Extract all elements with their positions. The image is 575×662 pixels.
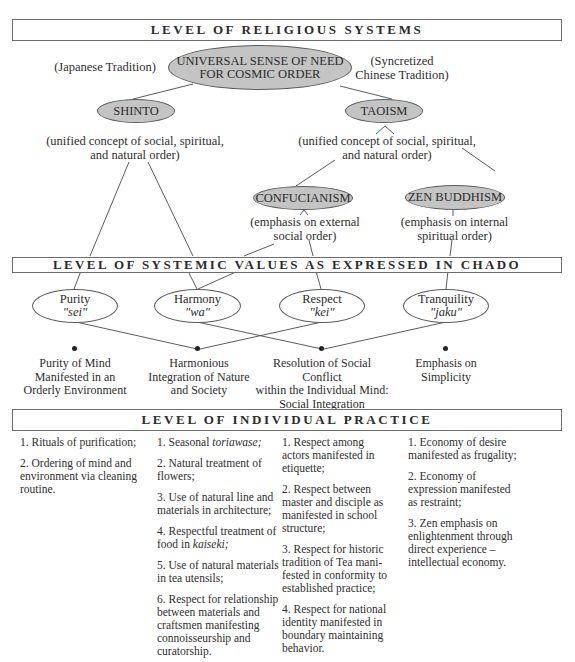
level-religious-systems-header: LEVEL OF RELIGIOUS SYSTEMS [12, 19, 562, 41]
chinese-tradition-label: (Syncretized Chinese Tradition) [352, 54, 452, 82]
practice-item: 3. Respect for historic tradition of Tea… [282, 543, 388, 595]
level-individual-practice-header: LEVEL OF INDIVIDUAL PRACTICE [12, 409, 562, 431]
item-term: toriawase; [212, 436, 261, 448]
value-harmony: Harmony "wa" [154, 289, 241, 323]
outcome-dot-purity [72, 346, 77, 351]
item-term: kaiseki; [193, 538, 229, 550]
practice-item: 1. Economy of desire manifested as fruga… [408, 436, 518, 462]
outcome-line: Simplicity [400, 371, 492, 385]
value-tranquility: Tranquility "jaku" [403, 289, 489, 323]
note-line: (emphasis on internal [392, 215, 517, 229]
taoism-note: (unified concept of social, spiritual, a… [292, 134, 482, 162]
label-line: (Syncretized [352, 54, 452, 68]
note-line: and natural order) [292, 148, 482, 162]
shinto-note: (unified concept of social, spiritual, a… [40, 134, 230, 162]
outcome-respect: Resolution of Social Conflict within the… [255, 357, 389, 411]
zen-note: (emphasis on internal spiritual order) [392, 215, 517, 243]
practice-item: 2. Economy of expression manifested as r… [408, 470, 518, 509]
note-line: (unified concept of social, spiritual, [40, 134, 230, 148]
practice-column-tranquility: 1. Economy of desire manifested as fruga… [408, 436, 518, 577]
practice-item: 2. Ordering of mind and environment via … [20, 457, 142, 496]
value-japanese: "wa" [185, 306, 210, 319]
node-label: CONFUCIANISM [255, 192, 350, 205]
practice-item: 2. Respect between master and disciple a… [282, 483, 388, 535]
outcome-line: within the Individual Mind: [255, 384, 389, 398]
node-zen-buddhism: ZEN BUDDHISM [405, 185, 505, 210]
outcome-line: Manifested in an [14, 371, 136, 385]
value-japanese: "sei" [63, 306, 87, 319]
outcome-tranquility: Emphasis on Simplicity [400, 357, 492, 384]
node-label: FOR COSMIC ORDER [200, 68, 321, 81]
practice-column-respect: 1. Respect among actors manifested in et… [282, 436, 388, 662]
outcome-dot-harmony [195, 346, 200, 351]
practice-column-purity: 1. Rituals of purification; 2. Ordering … [20, 436, 142, 504]
practice-item: 4. Respectful treatment of food in kaise… [157, 525, 279, 551]
node-label: ZEN BUDDHISM [408, 191, 502, 204]
value-respect: Respect "kei" [279, 289, 365, 323]
practice-item: 1. Seasonal toriawase; [157, 436, 279, 449]
outcome-line: Purity of Mind [14, 357, 136, 371]
practice-item: 6. Respect for relationship between mate… [157, 593, 279, 658]
note-line: (emphasis on external [240, 215, 370, 229]
note-line: spiritual order) [392, 229, 517, 243]
practice-item: 1. Respect among actors manifested in et… [282, 436, 388, 475]
outcome-line: and Society [140, 384, 258, 398]
practice-item: 4. Respect for national identity manifes… [282, 603, 388, 655]
value-japanese: "jaku" [430, 306, 462, 319]
outcome-line: Resolution of Social Conflict [255, 357, 389, 384]
practice-item: 1. Rituals of purification; [20, 436, 142, 449]
japanese-tradition-label: (Japanese Tradition) [45, 60, 165, 74]
note-line: and natural order) [40, 148, 230, 162]
practice-item: 3. Use of natural line and materials in … [157, 491, 279, 517]
confucianism-note: (emphasis on external social order) [240, 215, 370, 243]
practice-column-harmony: 1. Seasonal toriawase; 2. Natural treatm… [157, 436, 279, 662]
outcome-dot-tranquility [443, 346, 448, 351]
label-line: Chinese Tradition) [352, 68, 452, 82]
outcome-line: Integration of Nature [140, 371, 258, 385]
node-shinto: SHINTO [97, 99, 175, 123]
practice-item: 3. Zen emphasis on enlightenment through… [408, 517, 518, 569]
node-universal-cosmic-order: UNIVERSAL SENSE OF NEED FOR COSMIC ORDER [168, 45, 352, 90]
node-label: SHINTO [113, 105, 159, 118]
node-taoism: TAOISM [345, 99, 423, 123]
outcome-purity: Purity of Mind Manifested in an Orderly … [14, 357, 136, 398]
node-label: TAOISM [361, 105, 408, 118]
level-systemic-values-header: LEVEL OF SYSTEMIC VALUES AS EXPRESSED IN… [12, 257, 562, 273]
note-line: social order) [240, 229, 370, 243]
practice-item: 2. Natural treatment of flowers; [157, 457, 279, 483]
outcome-line: Harmonious [140, 357, 258, 371]
value-japanese: "kei" [309, 306, 334, 319]
note-line: (unified concept of social, spiritual, [292, 134, 482, 148]
node-confucianism: CONFUCIANISM [253, 186, 353, 210]
outcome-harmony: Harmonious Integration of Nature and Soc… [140, 357, 258, 398]
node-label: UNIVERSAL SENSE OF NEED [176, 55, 343, 68]
outcome-line: Emphasis on [400, 357, 492, 371]
practice-item: 5. Use of natural materials in tea utens… [157, 559, 279, 585]
outcome-line: Orderly Environment [14, 384, 136, 398]
item-text: 1. Seasonal [157, 436, 212, 448]
outcome-dot-respect [319, 346, 324, 351]
value-purity: Purity "sei" [32, 289, 118, 323]
